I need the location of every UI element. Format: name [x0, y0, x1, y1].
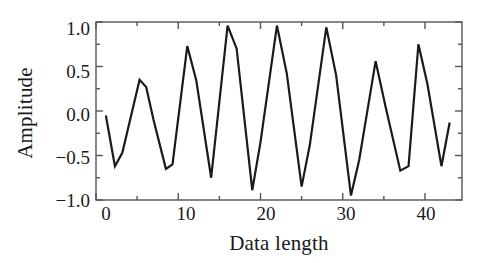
plot-area — [0, 0, 480, 263]
chart-figure: Amplitude 1.0 0.5 0.0 −0.5 −1.0 0 10 20 … — [0, 0, 480, 263]
data-line-signal — [106, 26, 450, 196]
